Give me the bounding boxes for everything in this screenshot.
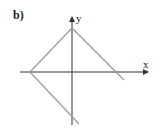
graph-svg	[0, 0, 167, 130]
graph-left-rising	[30, 28, 72, 72]
diagram-canvas: b) y x	[0, 0, 167, 130]
